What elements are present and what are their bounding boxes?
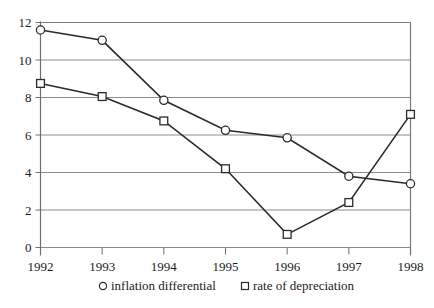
legend-marker-square-icon	[242, 283, 249, 290]
y-tick-label: 12	[19, 15, 32, 30]
y-tick-label: 2	[25, 203, 32, 218]
data-point-square	[98, 93, 106, 101]
data-point-square	[345, 199, 353, 207]
data-point-circle	[160, 96, 168, 104]
x-tick-label: 1992	[28, 259, 54, 274]
y-tick-label: 6	[25, 128, 32, 143]
chart-canvas: 024681012 1992199319941995199619971998 i…	[0, 0, 434, 308]
y-tick-label: 10	[19, 53, 32, 68]
x-tick-label: 1996	[274, 259, 301, 274]
data-point-square	[160, 117, 168, 125]
data-point-circle	[283, 134, 291, 142]
data-point-circle	[345, 172, 353, 180]
data-point-square	[283, 230, 291, 238]
x-tick-label: 1995	[213, 259, 239, 274]
data-point-circle	[221, 126, 229, 134]
y-tick-label: 8	[25, 90, 32, 105]
data-point-circle	[36, 26, 44, 34]
data-point-circle	[406, 180, 414, 188]
data-point-circle	[98, 36, 106, 44]
y-tick-label: 4	[25, 165, 32, 180]
x-tick-label: 1993	[89, 259, 115, 274]
line-chart: 024681012 1992199319941995199619971998 i…	[0, 0, 434, 308]
data-point-square	[407, 110, 415, 118]
x-tick-label: 1994	[151, 259, 178, 274]
legend-label-square: rate of depreciation	[253, 278, 355, 293]
x-tick-label: 1997	[336, 259, 363, 274]
legend-marker-circle-icon	[99, 282, 106, 289]
y-tick-label: 0	[25, 240, 32, 255]
data-point-square	[37, 80, 45, 88]
data-point-square	[222, 165, 230, 173]
x-tick-label: 1998	[398, 259, 424, 274]
legend-label-circle: inflation differential	[111, 278, 216, 293]
